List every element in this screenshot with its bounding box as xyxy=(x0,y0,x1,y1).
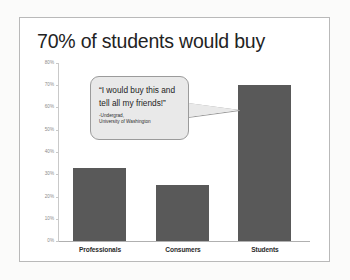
quote-callout: “I would buy this and tell all my friend… xyxy=(90,76,189,140)
y-tick-mark-20 xyxy=(56,197,59,198)
callout-quote-text: “I would buy this and tell all my friend… xyxy=(99,84,185,109)
scanned-page: 70% of students would buy 80% 70% 60% 50… xyxy=(0,0,350,280)
y-tick-label-50: 50% xyxy=(30,127,54,132)
y-tick-mark-70 xyxy=(56,85,59,86)
category-label-professionals: Professionals xyxy=(68,246,132,253)
callout-attribution-line-2: University of Washington xyxy=(99,119,187,125)
y-tick-mark-80 xyxy=(56,63,59,64)
bar-professionals xyxy=(73,168,126,241)
y-tick-label-40: 40% xyxy=(30,149,54,154)
y-tick-label-30: 30% xyxy=(30,171,54,176)
y-tick-mark-0 xyxy=(56,241,59,242)
y-tick-mark-10 xyxy=(56,219,59,220)
callout-attribution: -Undergrad, University of Washington xyxy=(99,113,187,126)
category-label-consumers: Consumers xyxy=(151,246,215,253)
callout-tail xyxy=(188,103,239,117)
y-tick-label-80: 80% xyxy=(30,60,54,65)
y-tick-label-70: 70% xyxy=(30,82,54,87)
category-label-students: Students xyxy=(233,246,297,253)
category-axis-line xyxy=(58,241,310,242)
y-tick-mark-60 xyxy=(56,107,59,108)
bar-students xyxy=(238,85,291,241)
y-tick-mark-50 xyxy=(56,130,59,131)
y-tick-label-10: 10% xyxy=(30,216,54,221)
y-tick-mark-30 xyxy=(56,174,59,175)
bar-consumers xyxy=(156,185,209,241)
y-tick-label-60: 60% xyxy=(30,104,54,109)
y-tick-mark-40 xyxy=(56,152,59,153)
presentation-slide: 70% of students would buy 80% 70% 60% 50… xyxy=(19,17,330,262)
bar-chart: 80% 70% 60% 50% 40% 30% 20% 10% 0% Pro xyxy=(20,18,331,263)
y-tick-label-20: 20% xyxy=(30,194,54,199)
y-tick-label-0: 0% xyxy=(30,238,54,243)
